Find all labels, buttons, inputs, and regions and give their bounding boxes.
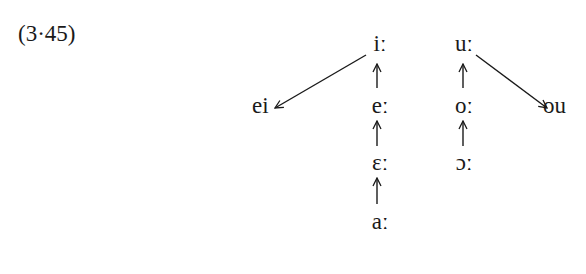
diphthong-ei: ei: [252, 94, 269, 117]
arrows-layer: [0, 0, 586, 274]
vowel-e-long: eː: [372, 94, 389, 117]
vowel-o-long: oː: [455, 94, 473, 117]
vowel-u-long: uː: [455, 32, 473, 55]
vowel-a-long: aː: [372, 210, 389, 233]
arrow-u-to-ou: [476, 55, 547, 108]
vowel-i-long: iː: [374, 32, 387, 55]
vowel-open-o-long: ɔː: [456, 151, 473, 174]
diphthong-ou: ou: [543, 94, 566, 117]
vowel-open-e-long: ɛː: [372, 151, 388, 174]
example-number: (3·45): [18, 22, 75, 45]
arrow-i-to-ei: [275, 55, 366, 108]
